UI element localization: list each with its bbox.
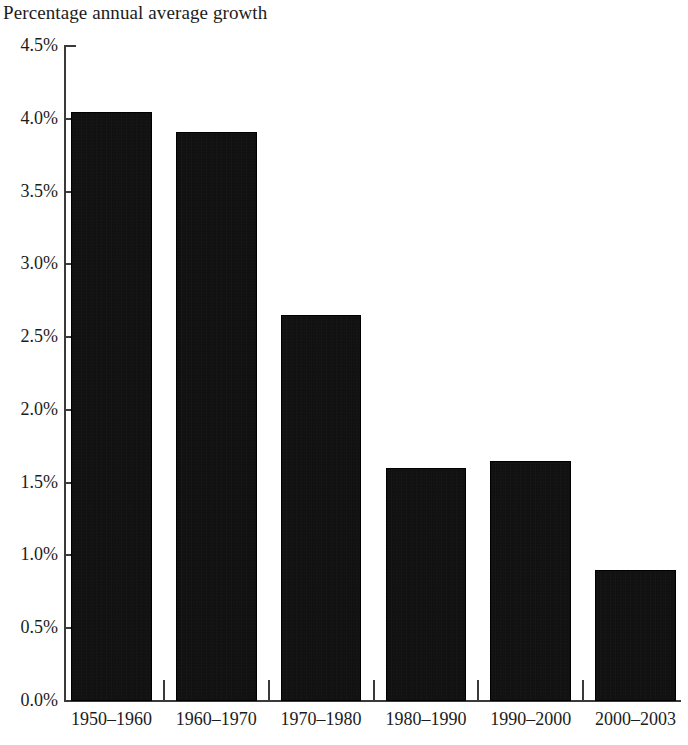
y-axis-tick-label-text: 4.5% <box>2 36 58 54</box>
x-axis-label: 1980–1990 <box>374 708 479 730</box>
y-axis-tick-label: 2.0% <box>0 400 58 418</box>
x-axis-label: 1950–1960 <box>59 708 164 730</box>
y-axis-tick-label-text: 2.0% <box>2 400 58 418</box>
y-axis-tick-label-text: 3.5% <box>2 182 58 200</box>
x-axis-label: 1960–1970 <box>164 708 269 730</box>
y-axis-tick-label: 1.0% <box>0 545 58 563</box>
x-axis-label: 2000–2003 <box>583 708 688 730</box>
x-axis-label: 1970–1980 <box>269 708 374 730</box>
y-axis-tick-label: 0.5% <box>0 618 58 636</box>
y-axis-tick-label: 3.0% <box>0 254 58 272</box>
y-axis-tick-label-text: 1.0% <box>2 545 58 563</box>
y-axis-tick-label-text: 0.5% <box>2 618 58 636</box>
bar <box>281 315 362 701</box>
x-axis-tick <box>582 680 584 701</box>
bar-chart-plot-area: 0.0%0.5%1.0%1.5%2.0%2.5%3.0%3.5%4.0%4.5%… <box>0 0 688 745</box>
y-axis-tick-label: 3.5% <box>0 182 58 200</box>
y-axis-tick-label-text: 1.5% <box>2 473 58 491</box>
y-axis-tick-label-text: 2.5% <box>2 327 58 345</box>
x-axis-tick <box>163 680 165 701</box>
y-axis-tick-label-text: 0.0% <box>2 691 58 709</box>
y-axis-tick <box>64 45 76 47</box>
y-axis-tick-label-text: 3.0% <box>2 254 58 272</box>
bar <box>490 461 571 701</box>
x-axis-tick <box>268 680 270 701</box>
x-axis-tick <box>373 680 375 701</box>
bar <box>176 132 257 701</box>
y-axis-line <box>64 45 66 702</box>
x-axis-tick <box>477 680 479 701</box>
y-axis-tick-label: 4.0% <box>0 109 58 127</box>
bar <box>71 112 152 702</box>
bar <box>595 570 676 701</box>
bar <box>386 468 467 701</box>
y-axis-tick-label-text: 4.0% <box>2 109 58 127</box>
x-axis-label: 1990–2000 <box>478 708 583 730</box>
y-axis-tick-label: 1.5% <box>0 473 58 491</box>
y-axis-tick-label: 2.5% <box>0 327 58 345</box>
y-axis-tick-label: 0.0% <box>0 691 58 709</box>
y-axis-tick-label: 4.5% <box>0 36 58 54</box>
